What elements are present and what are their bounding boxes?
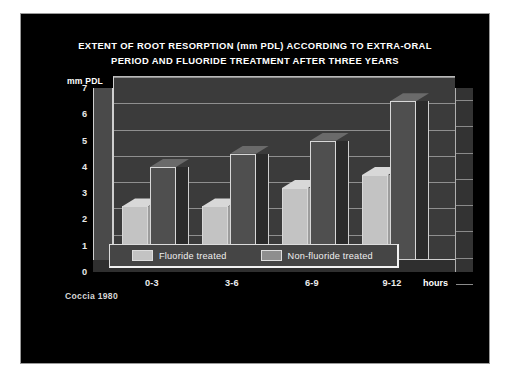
depth-rung [456,205,473,206]
y-axis-tick-6: 6 [65,109,87,119]
y-axis-tick-0: 0 [65,267,87,277]
bar-6-9-non-fluoride[interactable] [310,133,349,259]
x-axis-unit-label: hours [423,278,448,288]
legend-swatch-icon [132,250,153,261]
y-axis-tick-4: 4 [65,162,87,172]
depth-rung [456,126,473,127]
x-axis-tick-9-12: 9-12 [365,278,419,288]
plot-area [113,76,455,260]
legend-item-non-fluoride-treated[interactable]: Non-fluoride treated [261,250,373,261]
depth-rung [456,284,473,285]
y-axis-tick-3: 3 [65,188,87,198]
legend: Fluoride treated Non-fluoride treated [109,244,399,268]
depth-rung [456,153,473,154]
y-axis-tick-5: 5 [65,136,87,146]
x-axis-tick-0-3: 0-3 [125,278,179,288]
source-credit: Coccia 1980 [65,291,118,301]
y-axis-tick-1: 1 [65,241,87,251]
bar-top-face [310,133,349,141]
gridline [114,77,455,78]
bar-side-face [336,141,349,259]
bar-top-face [390,93,429,101]
legend-item-label: Non-fluoride treated [288,251,373,261]
depth-rung [456,100,473,101]
chart-right-wall [455,88,473,272]
bar-front-face [310,141,336,259]
y-axis-tick-2: 2 [65,214,87,224]
bar-top-face [230,146,269,154]
legend-item-label: Fluoride treated [159,251,227,261]
bar-9-12-non-fluoride[interactable] [390,93,429,259]
page-title: EXTENT OF ROOT RESORPTION (mm PDL) ACCOR… [21,38,489,68]
bar-side-face [416,101,429,259]
slide-frame: EXTENT OF ROOT RESORPTION (mm PDL) ACCOR… [20,13,490,364]
x-axis-tick-6-9: 6-9 [285,278,339,288]
legend-swatch-icon [261,250,282,261]
title-line-1: EXTENT OF ROOT RESORPTION (mm PDL) ACCOR… [21,38,489,53]
depth-rung [456,179,473,180]
bar-3-6-non-fluoride[interactable] [230,146,269,259]
legend-item-fluoride-treated[interactable]: Fluoride treated [132,250,227,261]
title-line-2: PERIOD AND FLUORIDE TREATMENT AFTER THRE… [21,53,489,68]
depth-rung [456,231,473,232]
bar-front-face [390,101,416,259]
depth-rung [456,258,473,259]
bar-top-face [150,159,189,167]
y-axis-tick-7: 7 [65,83,87,93]
x-axis-tick-3-6: 3-6 [205,278,259,288]
